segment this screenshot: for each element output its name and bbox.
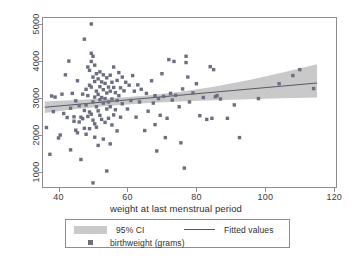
data-point [124,81,127,84]
data-point [77,120,80,123]
data-point [186,75,189,78]
data-point [69,107,72,110]
data-point [155,149,158,152]
data-point [83,127,86,130]
scatter-marker-swatch [88,240,93,245]
data-point [77,104,80,107]
data-point [298,68,301,71]
data-point [110,97,113,100]
data-point [127,84,130,87]
data-point [90,22,93,25]
data-point [198,114,201,117]
data-point [174,94,177,97]
data-point [91,75,94,78]
legend-item-ci: 95% CI [74,223,144,236]
x-tick-label: 120 [326,192,342,202]
data-point [109,105,112,108]
data-point [115,129,118,132]
data-point [110,81,113,84]
data-point [76,79,79,82]
data-point [112,113,115,116]
data-point [83,109,86,112]
data-point [143,129,146,132]
data-point [312,87,315,90]
data-point [64,73,67,76]
data-point [145,92,148,95]
data-point [109,89,112,92]
data-point [100,80,103,83]
data-point [91,181,94,184]
data-point [69,148,72,151]
data-point [79,158,82,161]
y-tick-label: 1000 [31,156,41,188]
data-point [160,72,163,75]
data-point [100,96,103,99]
data-point [109,74,112,77]
data-point [129,99,132,102]
data-point [122,89,125,92]
data-point [152,101,155,104]
x-tick-label: 100 [258,192,274,202]
data-point [98,70,101,73]
legend-label-fitted: Fitted values [224,225,274,235]
data-point [191,91,194,94]
data-point [83,37,86,40]
data-point [134,115,137,118]
data-point [50,94,53,97]
data-point [119,115,122,118]
data-point [159,114,162,117]
y-tick-label: 4000 [31,45,41,77]
plot-frame [42,17,337,188]
data-point [210,117,213,120]
data-point [98,85,101,88]
data-point [162,95,165,98]
data-point [277,82,280,85]
data-point [233,103,236,106]
data-point [95,126,98,129]
data-point [74,99,77,102]
data-point [86,65,89,68]
data-point [133,89,136,92]
data-point [117,71,120,74]
data-point [103,121,106,124]
data-point [96,77,99,80]
data-point [90,60,93,63]
data-point [107,117,110,120]
data-point [226,117,229,120]
data-point [90,52,93,55]
data-point [179,141,182,144]
data-point [96,144,99,147]
data-point [98,114,101,117]
data-point [93,95,96,98]
data-point [115,99,118,102]
x-axis-title: weight at last menstrual period [0,203,352,214]
data-point [102,101,105,104]
data-point [93,80,96,83]
data-point [169,92,172,95]
data-point [102,73,105,76]
data-point [105,107,108,110]
x-tick-label: 80 [191,192,201,202]
data-point [86,94,89,97]
data-point [184,61,187,64]
y-tick-label: 2000 [31,119,41,151]
data-point [81,117,84,120]
data-point [105,76,108,79]
data-point [183,166,186,169]
data-point [91,118,94,121]
data-point [103,82,106,85]
data-point [93,63,96,66]
data-point [107,100,110,103]
chart-legend: 95% CI Fitted values birthweight (grams) [65,219,290,248]
data-point [188,100,191,103]
data-point [48,153,51,156]
data-point [171,98,174,101]
data-point [88,127,91,130]
data-point [150,79,153,82]
data-point [172,60,175,63]
data-point [238,136,241,139]
data-point [115,79,118,82]
fitted-line-swatch [184,229,215,230]
data-point [96,93,99,96]
data-point [157,97,160,100]
